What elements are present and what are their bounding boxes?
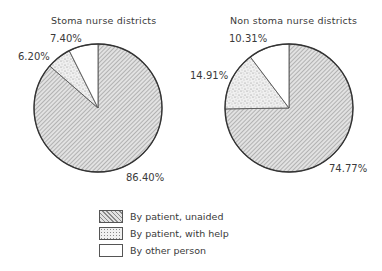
left-label-other: 7.40% — [50, 33, 82, 44]
hatch-swatch-icon — [99, 210, 123, 223]
legend: By patient, unaided By patient, with hel… — [99, 208, 229, 259]
legend-label: By other person — [130, 245, 206, 256]
blank-swatch-icon — [99, 244, 123, 257]
right-label-other: 10.31% — [229, 33, 267, 44]
legend-label: By patient, with help — [130, 228, 229, 239]
left-pie — [34, 44, 162, 172]
right-label-unaided: 74.77% — [329, 163, 367, 174]
legend-item-unaided: By patient, unaided — [99, 208, 229, 225]
right-pie — [225, 44, 353, 172]
left-label-help: 6.20% — [18, 51, 50, 62]
legend-item-with-help: By patient, with help — [99, 225, 229, 242]
right-label-help: 14.91% — [190, 70, 228, 81]
left-label-unaided: 86.40% — [126, 172, 164, 183]
legend-label: By patient, unaided — [130, 211, 223, 222]
stipple-swatch-icon — [99, 227, 123, 240]
legend-item-other-person: By other person — [99, 242, 229, 259]
